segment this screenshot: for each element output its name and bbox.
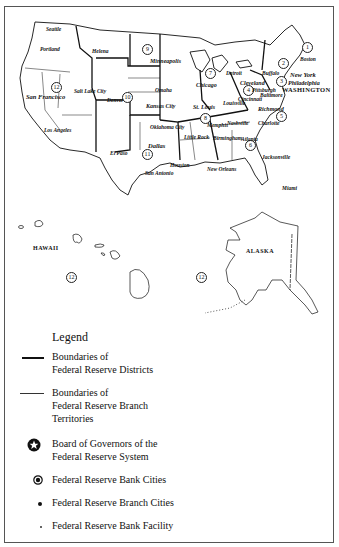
district-number-7: 7 <box>205 68 216 79</box>
city-portland: Portland <box>40 46 60 52</box>
city-minneapolis: Minneapolis <box>150 58 181 64</box>
legend-item-branch-boundaries: Boundaries of Federal Reserve Branch Ter… <box>52 386 148 425</box>
city-dallas: Dallas <box>148 143 165 149</box>
bullseye-icon <box>33 475 43 485</box>
alaska-district-number: 12 <box>196 272 207 283</box>
dot-icon <box>38 502 42 506</box>
city-st-louis: St. Louis <box>193 104 215 110</box>
legend-item-branch-cities: Federal Reserve Branch Cities <box>52 496 174 509</box>
city-birmingham: Birmingham <box>213 135 242 141</box>
district-number-12: 12 <box>51 82 62 93</box>
city-jacksonville: Jacksonville <box>262 154 290 160</box>
city-san-antonio: San Antonio <box>145 170 173 176</box>
city-detroit: Detroit <box>226 70 242 76</box>
city-memphis: Memphis <box>207 122 228 128</box>
city-new-orleans: New Orleans <box>207 166 237 172</box>
city-cincinnati: Cincinnati <box>238 96 262 102</box>
city-cleveland: Cleveland <box>240 80 265 86</box>
city-seattle: Seattle <box>46 26 61 32</box>
district-number-2: 2 <box>278 58 289 69</box>
city-miami: Miami <box>282 185 297 191</box>
city-oklahoma-city: Oklahoma City <box>150 124 184 130</box>
city-new-york: New York <box>290 72 316 78</box>
city-denver: Denver <box>107 97 124 103</box>
city-omaha: Omaha <box>155 87 172 93</box>
label-alaska: ALASKA <box>246 248 274 254</box>
city-chicago: Chicago <box>196 82 217 88</box>
city-salt-lake-city: Salt Lake City <box>74 88 106 94</box>
city-kansas-city: Kansas City <box>146 103 176 109</box>
legend-item-district-boundaries: Boundaries of Federal Reserve Districts <box>52 350 153 376</box>
city-los-angeles: Los Angeles <box>44 127 71 133</box>
city-helena: Helena <box>92 48 109 54</box>
city-houston: Houston <box>170 162 190 168</box>
city-richmond: Richmond <box>258 106 284 112</box>
city-baltimore: Baltimore <box>260 92 283 98</box>
legend-item-bank-facility: Federal Reserve Bank Facility <box>52 519 173 532</box>
district-number-11: 11 <box>142 149 153 160</box>
label-hawaii: HAWAII <box>33 245 59 251</box>
city-charlotte: Charlotte <box>258 120 279 126</box>
city-san-francisco: San Francisco <box>26 94 65 100</box>
city-washington: WASHINGTON <box>282 86 330 93</box>
star-circle-icon <box>27 438 41 452</box>
thin-line-icon <box>20 393 44 394</box>
city-el-paso: El Paso <box>110 150 128 156</box>
legend-item-board-of-governors: Board of Governors of the Federal Reserv… <box>52 437 158 463</box>
legend-title: Legend <box>52 330 88 345</box>
thick-line-icon <box>22 357 44 359</box>
city-nashville: Nashville <box>227 120 248 126</box>
district-number-9: 9 <box>142 44 153 55</box>
small-dot-icon <box>40 526 42 528</box>
city-atlanta: Atlanta <box>241 136 258 142</box>
city-little-rock: Little Rock <box>184 134 209 140</box>
district-number-1: 1 <box>302 42 313 53</box>
legend-item-bank-cities: Federal Reserve Bank Cities <box>52 473 166 486</box>
city-buffalo: Buffalo <box>262 70 279 76</box>
city-boston: Boston <box>300 56 316 62</box>
hawaii-district-number: 12 <box>66 272 77 283</box>
